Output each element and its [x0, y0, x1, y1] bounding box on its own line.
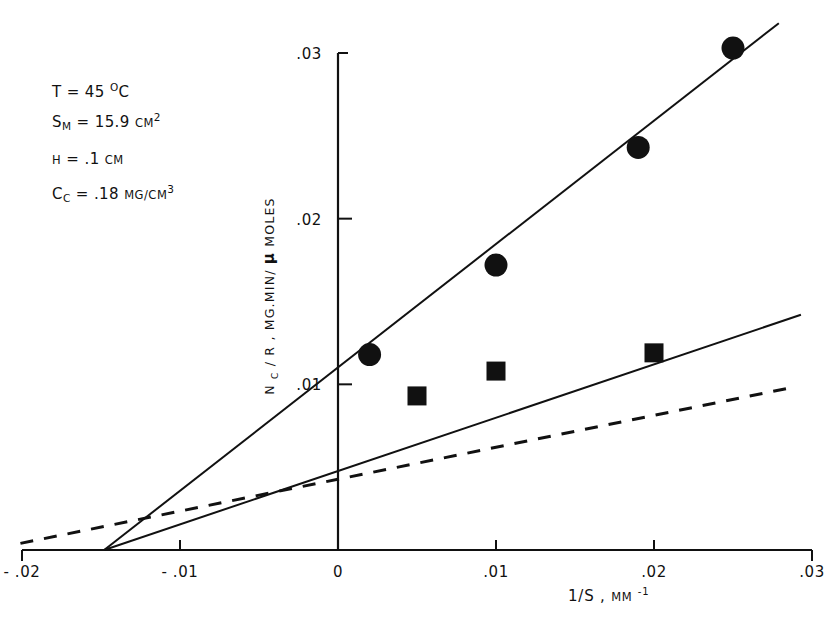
unit-cm-2: CM	[105, 153, 124, 167]
exp-3: 3	[167, 183, 174, 195]
reference-dashed	[20, 388, 791, 544]
data-point-circle	[722, 37, 745, 60]
data-point-circle	[485, 254, 508, 277]
x-tick-label: .02	[641, 563, 667, 581]
x-tick-labels: - .02- .010.01.02.03	[3, 563, 824, 581]
annotation-temperature: T = 45 OC	[52, 72, 174, 102]
annotation-height: H = .1 CM	[52, 144, 174, 174]
data-point-circle	[627, 136, 650, 159]
figure-container: T = 45 OC SM = 15.9 CM2 H = .1 CM CC = .…	[0, 0, 833, 631]
data-point-circle	[358, 343, 381, 366]
data-point-square	[408, 386, 427, 405]
y-axis-title-mid: / R , MG.MIN/	[262, 269, 277, 366]
y-axis-title-lead: N	[262, 384, 277, 395]
y-axis-title: N C / R , MG.MIN/ μ MOLES	[260, 197, 281, 394]
parameter-annotations: T = 45 OC SM = 15.9 CM2 H = .1 CM CC = .…	[52, 72, 174, 204]
label-h: H	[52, 153, 61, 167]
upper-fit	[104, 23, 779, 550]
data-markers-group	[358, 37, 744, 406]
sub-m: M	[62, 120, 71, 132]
degree-sup: O	[110, 81, 119, 93]
annotation-concentration: CC = .18 MG/CM3	[52, 174, 174, 204]
lower-fit	[104, 315, 801, 550]
y-tick-labels: .01.02.03	[296, 45, 322, 394]
y-tick-marks	[338, 53, 352, 384]
x-axis-title-main: 1/S ,	[568, 587, 611, 605]
annotation-surface-area: SM = 15.9 CM2	[52, 102, 174, 132]
y-axis-title-mu: μ	[260, 252, 278, 264]
data-point-square	[487, 362, 506, 381]
y-tick-label: .02	[296, 211, 322, 229]
y-tick-label: .03	[296, 45, 322, 63]
data-point-square	[645, 343, 664, 362]
x-tick-label: .01	[483, 563, 509, 581]
x-axis-title-exponent: -1	[638, 586, 650, 597]
x-axis-title: 1/S , MM -1	[568, 586, 649, 605]
y-tick-label: .01	[296, 376, 322, 394]
x-tick-label: - .01	[161, 563, 198, 581]
sub-c: C	[63, 192, 71, 204]
x-axis-title-unit: MM	[611, 590, 632, 604]
svg-text:1/S , MM -1: 1/S , MM -1	[568, 586, 649, 605]
x-tick-label: 0	[333, 563, 343, 581]
unit-mgcm3: MG/CM	[124, 188, 167, 202]
x-tick-label: - .02	[3, 563, 40, 581]
svg-text:N C / R , MG.: N C / R , MG.MIN/ μ MOLES	[260, 197, 281, 394]
y-axis-title-subscript: C	[270, 371, 280, 378]
x-tick-label: .03	[799, 563, 825, 581]
y-axis-title-tail: MOLES	[262, 197, 277, 246]
unit-cm: CM	[135, 116, 154, 130]
exp-2: 2	[154, 111, 161, 123]
